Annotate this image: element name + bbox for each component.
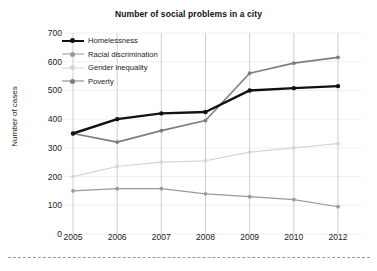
data-point-homelessness xyxy=(336,84,340,88)
data-point-racial-discrimination xyxy=(115,187,119,191)
bottom-divider xyxy=(8,257,370,258)
data-point-gender-inequality xyxy=(71,175,75,179)
data-point-homelessness xyxy=(71,131,75,135)
data-point-gender-inequality xyxy=(115,165,119,169)
data-point-racial-discrimination xyxy=(248,195,252,199)
data-point-racial-discrimination xyxy=(71,189,75,193)
data-point-homelessness xyxy=(115,117,119,121)
legend-label-homelessness: Homelessness xyxy=(88,36,138,45)
data-point-racial-discrimination xyxy=(336,205,340,209)
data-point-poverty xyxy=(115,140,119,144)
data-point-poverty xyxy=(204,119,208,123)
x-tick-2009: 2009 xyxy=(227,232,273,242)
legend-label-racial-discrimination: Racial discrimination xyxy=(88,50,158,59)
data-point-gender-inequality xyxy=(292,146,296,150)
legend-item-racial-discrimination: Racial discrimination xyxy=(62,48,158,62)
data-point-racial-discrimination xyxy=(159,187,163,191)
data-point-homelessness xyxy=(203,110,207,114)
data-point-poverty xyxy=(159,129,163,133)
data-point-gender-inequality xyxy=(248,150,252,154)
data-point-gender-inequality xyxy=(204,159,208,163)
legend-swatch-homelessness xyxy=(62,35,84,46)
legend-item-gender-inequality: Gender inequality xyxy=(62,61,158,75)
x-tick-2005: 2005 xyxy=(50,232,96,242)
data-point-poverty xyxy=(336,56,340,60)
data-point-gender-inequality xyxy=(159,160,163,164)
legend-label-gender-inequality: Gender inequality xyxy=(88,63,148,72)
legend-swatch-gender-inequality xyxy=(62,62,84,73)
legend-item-homelessness: Homelessness xyxy=(62,34,158,48)
plot-area xyxy=(0,0,377,271)
x-tick-2006: 2006 xyxy=(94,232,140,242)
legend-label-poverty: Poverty xyxy=(88,77,114,86)
legend-item-poverty: Poverty xyxy=(62,75,158,89)
x-tick-2007: 2007 xyxy=(138,232,184,242)
data-point-poverty xyxy=(248,71,252,75)
data-point-racial-discrimination xyxy=(204,192,208,196)
data-point-racial-discrimination xyxy=(292,198,296,202)
legend-swatch-racial-discrimination xyxy=(62,49,84,60)
data-point-poverty xyxy=(292,61,296,65)
data-point-homelessness xyxy=(159,111,163,115)
x-tick-2008: 2008 xyxy=(183,232,229,242)
x-tick-2010: 2010 xyxy=(271,232,317,242)
data-point-homelessness xyxy=(292,86,296,90)
data-point-homelessness xyxy=(247,88,251,92)
chart-legend: Homelessness Racial discrimination Gende… xyxy=(62,34,158,88)
chart-figure: Number of social problems in a city Numb… xyxy=(0,0,377,271)
x-tick-2012: 2012 xyxy=(315,232,361,242)
legend-swatch-poverty xyxy=(62,76,84,87)
data-point-gender-inequality xyxy=(336,142,340,146)
